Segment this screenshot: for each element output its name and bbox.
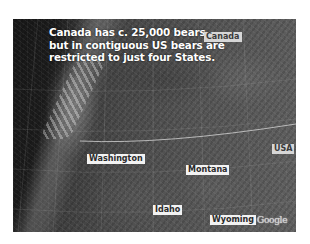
satellite-map[interactable]: Canada has c. 25,000 bears but in contig…	[13, 19, 296, 232]
label-montana[interactable]: Montana	[186, 165, 229, 175]
headline-line-1: Canada has c. 25,000 bears	[49, 26, 219, 39]
us-canada-border-line	[80, 124, 296, 142]
map-headline: Canada has c. 25,000 bears but in contig…	[49, 26, 219, 64]
headline-line-2: but in contiguous US bears are	[49, 39, 219, 52]
google-logo: Google	[257, 215, 287, 225]
label-washington[interactable]: Washington	[87, 154, 145, 164]
headline-line-3: restricted to just four States.	[49, 51, 219, 64]
label-canada[interactable]: Canada	[204, 32, 242, 42]
label-idaho[interactable]: Idaho	[153, 205, 182, 215]
label-usa[interactable]: USA	[272, 144, 294, 154]
label-wyoming[interactable]: Wyoming	[210, 215, 256, 225]
